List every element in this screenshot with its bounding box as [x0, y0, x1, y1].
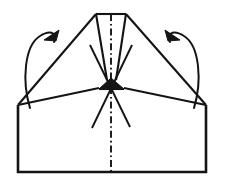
figure-canvas: [0, 0, 228, 180]
origami-fold-diagram: [0, 0, 228, 180]
